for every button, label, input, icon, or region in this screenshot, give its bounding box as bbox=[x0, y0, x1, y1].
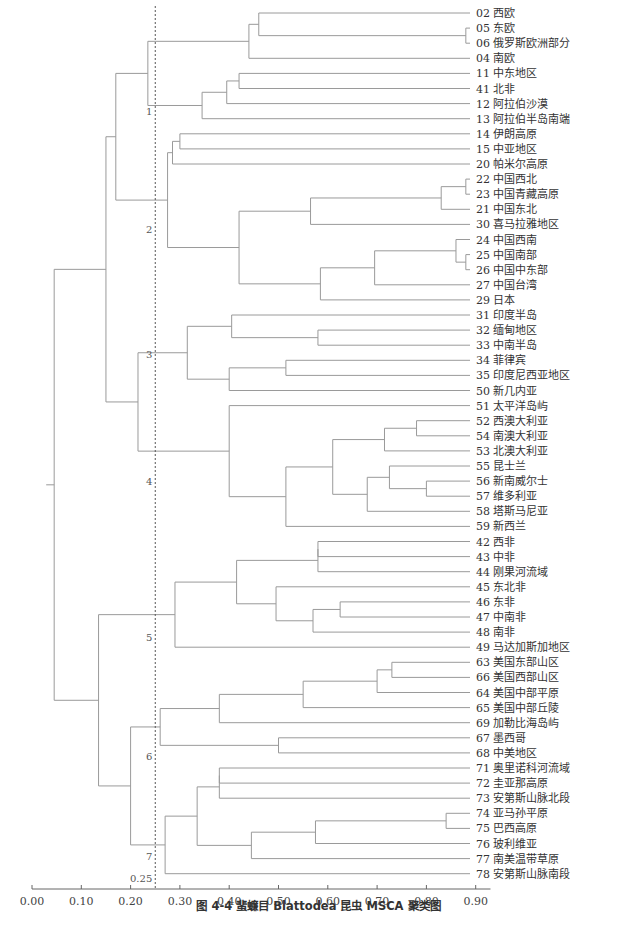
cluster-number: 3 bbox=[146, 349, 152, 360]
leaf-label: 63 美国东部山区 bbox=[476, 655, 560, 669]
leaf-label: 24 中国西南 bbox=[476, 234, 538, 247]
leaf-label: 13 阿拉伯半岛南端 bbox=[476, 112, 571, 126]
leaf-label: 67 墨西哥 bbox=[476, 732, 527, 745]
leaf-label: 45 东北非 bbox=[476, 581, 527, 594]
leaf-label: 55 昆士兰 bbox=[476, 460, 527, 473]
leaf-label: 75 巴西高原 bbox=[476, 821, 538, 835]
leaf-label: 35 印度尼西亚地区 bbox=[476, 368, 571, 382]
cluster-number: 4 bbox=[146, 476, 152, 487]
leaf-label: 14 伊朗高原 bbox=[476, 127, 538, 141]
leaf-label: 51 太平洋岛屿 bbox=[476, 399, 549, 413]
leaf-label: 25 中国南部 bbox=[476, 248, 538, 262]
leaf-label: 32 缅甸地区 bbox=[476, 323, 538, 337]
leaf-label: 11 中东地区 bbox=[476, 67, 538, 80]
leaf-label: 30 喜马拉雅地区 bbox=[476, 217, 560, 231]
leaf-label: 29 日本 bbox=[476, 293, 516, 307]
leaf-label: 33 中南半岛 bbox=[476, 338, 538, 352]
cluster-labels: 1234567 bbox=[146, 106, 152, 861]
leaf-label: 48 南非 bbox=[476, 626, 516, 639]
leaf-label: 44 刚果河流域 bbox=[476, 565, 549, 579]
leaf-label: 15 中亚地区 bbox=[476, 143, 538, 156]
leaf-label: 26 中国中东部 bbox=[476, 263, 549, 277]
leaf-label: 58 塔斯马尼亚 bbox=[476, 505, 549, 518]
leaf-label: 68 中美地区 bbox=[476, 747, 538, 760]
cut-value-label: 0.25 bbox=[130, 873, 152, 884]
leaf-label: 69 加勒比海岛屿 bbox=[476, 716, 560, 730]
leaf-label: 71 奥里诺科河流域 bbox=[476, 761, 571, 775]
leaf-label: 47 中南非 bbox=[476, 611, 527, 624]
figure-caption: 图 4-4 蜚蠊目 Blattodea 昆虫 MSCA 聚类图 bbox=[0, 897, 637, 913]
leaf-label: 27 中国台湾 bbox=[476, 278, 538, 292]
leaf-label: 12 阿拉伯沙漠 bbox=[476, 97, 549, 111]
leaf-label: 46 东非 bbox=[476, 596, 516, 609]
leaf-label: 64 美国中部平原 bbox=[476, 686, 560, 700]
leaf-label: 53 北澳大利亚 bbox=[476, 444, 549, 458]
leaf-label: 05 东欧 bbox=[476, 22, 516, 35]
leaf-label: 56 新南威尔士 bbox=[476, 474, 549, 488]
leaf-label: 31 印度半岛 bbox=[476, 308, 538, 322]
leaf-label: 72 圭亚那高原 bbox=[476, 776, 549, 790]
cluster-number: 2 bbox=[146, 224, 152, 235]
dendrogram-branches bbox=[46, 13, 470, 874]
leaf-label: 41 北非 bbox=[476, 83, 516, 96]
cluster-number: 5 bbox=[146, 632, 152, 643]
leaf-label: 42 西非 bbox=[476, 536, 516, 549]
leaf-label: 52 西澳大利亚 bbox=[476, 414, 549, 428]
leaf-label: 43 中非 bbox=[476, 551, 516, 564]
leaf-label: 34 菲律宾 bbox=[476, 353, 527, 367]
leaf-label: 66 美国西部山区 bbox=[476, 670, 560, 684]
cluster-number: 6 bbox=[146, 751, 152, 762]
cluster-number: 7 bbox=[146, 851, 152, 862]
leaf-label: 65 美国中部丘陵 bbox=[476, 701, 560, 715]
leaf-label: 21 中国东北 bbox=[476, 203, 538, 216]
leaf-label: 77 南美温带草原 bbox=[476, 853, 560, 866]
leaf-label: 59 新西兰 bbox=[476, 519, 527, 533]
leaf-label: 06 俄罗斯欧洲部分 bbox=[476, 36, 571, 50]
leaf-label: 74 亚马孙平原 bbox=[476, 807, 549, 820]
leaf-label: 57 维多利亚 bbox=[476, 489, 538, 503]
leaf-label: 78 安第斯山脉南段 bbox=[476, 867, 571, 881]
leaf-label: 76 玻利维亚 bbox=[476, 838, 538, 851]
leaf-label: 54 南澳大利亚 bbox=[476, 429, 549, 443]
leaf-label: 22 中国西北 bbox=[476, 173, 538, 186]
leaf-label: 73 安第斯山脉北段 bbox=[476, 791, 571, 805]
cluster-number: 1 bbox=[146, 106, 152, 117]
leaf-label: 04 南欧 bbox=[476, 52, 516, 65]
leaf-labels: 02 西欧05 东欧06 俄罗斯欧洲部分04 南欧11 中东地区41 北非12 … bbox=[476, 7, 571, 881]
leaf-label: 20 帕米尔高原 bbox=[476, 157, 549, 171]
leaf-label: 50 新几内亚 bbox=[476, 384, 538, 398]
leaf-label: 02 西欧 bbox=[476, 7, 516, 20]
leaf-label: 23 中国青藏高原 bbox=[476, 187, 560, 201]
dendrogram: 02 西欧05 东欧06 俄罗斯欧洲部分04 南欧11 中东地区41 北非12 … bbox=[0, 0, 637, 948]
leaf-label: 49 马达加斯加地区 bbox=[476, 641, 571, 654]
